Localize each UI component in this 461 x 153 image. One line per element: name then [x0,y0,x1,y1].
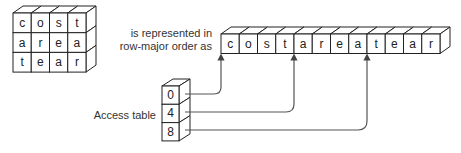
strip-cell-6-char: e [336,37,343,51]
arrow-row-1 [185,57,294,112]
strip-cell-7-char: a [355,37,362,51]
access-table: 048 [162,79,190,141]
grid-cell-r2-c1-char: e [37,55,44,69]
grid-cell-r2-c2-char: a [55,55,62,69]
row-major-strip: costareatear [221,27,450,54]
pointer-arrows [185,57,367,130]
grid-cell-r0-c0-char: c [19,16,25,30]
strip-cell-10-char: a [409,37,416,51]
grid-cell-r1-c0-char: a [19,36,26,50]
grid-cell-r0-c2-char: s [56,16,62,30]
access-table-entry-0-char: 0 [167,88,174,102]
strip-cell-11-char: r [429,37,433,51]
row-major-diagram: costareatear is represented in row-major… [0,0,461,153]
access-table-entry-1-char: 4 [167,106,174,120]
source-grid: costareatear [13,6,96,72]
strip-cell-4-char: a [300,37,307,51]
caption-line-2: row-major order as [120,40,213,52]
grid-cell-r2-c3-char: r [75,55,79,69]
grid-cell-r1-c2-char: e [55,36,62,50]
strip-cell-5-char: r [319,37,323,51]
access-table-entry-2-char: 8 [167,125,174,139]
grid-cell-r1-c1-char: r [38,36,42,50]
strip-cell-2-char: s [264,37,270,51]
access-table-label: Access table [94,109,156,121]
strip-cell-0-char: c [227,37,233,51]
strip-cell-1-char: o [245,37,252,51]
grid-cell-r0-c1-char: o [37,16,44,30]
grid-cell-r1-c3-char: a [74,36,81,50]
strip-cell-9-char: e [391,37,398,51]
caption-line-1: is represented in [131,27,212,39]
